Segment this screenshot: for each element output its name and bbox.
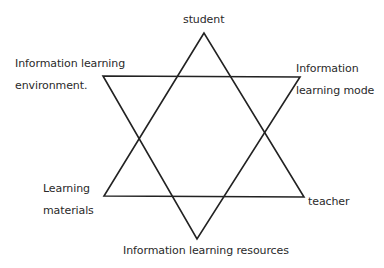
hexagram-diagram (0, 0, 384, 268)
label-information-learning-environment: Information learning environment. (15, 53, 125, 97)
label-student: student (183, 9, 224, 31)
label-student-line-1: student (183, 9, 224, 31)
upward-triangle (104, 33, 304, 197)
label-teacher-line-1: teacher (308, 191, 349, 213)
downward-triangle (103, 76, 300, 239)
label-environment-line-2: environment. (15, 75, 125, 97)
label-learning-materials: Learning materials (43, 178, 94, 222)
label-information-learning-resources: Information learning resources (123, 240, 289, 262)
label-mode-line-1: Information (296, 58, 374, 80)
label-mode-line-2: learning mode (296, 80, 374, 102)
label-environment-line-1: Information learning (15, 53, 125, 75)
label-information-learning-mode: Information learning mode (296, 58, 374, 102)
label-materials-line-2: materials (43, 200, 94, 222)
label-resources-line-1: Information learning resources (123, 240, 289, 262)
label-teacher: teacher (308, 191, 349, 213)
label-materials-line-1: Learning (43, 178, 94, 200)
